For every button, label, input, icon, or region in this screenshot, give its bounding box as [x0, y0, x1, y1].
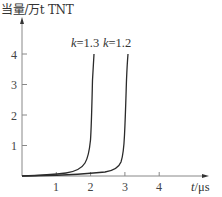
x-axis-title: t/μs — [191, 180, 210, 194]
curve-label-k-1-3: k=1.3 — [71, 36, 99, 50]
curve-label-k-1-2: k=1.2 — [103, 36, 131, 50]
y-tick-label: 3 — [11, 78, 17, 92]
y-tick-label: 4 — [11, 48, 17, 62]
x-tick-label: 2 — [88, 180, 94, 194]
x-tick-label: 3 — [122, 180, 128, 194]
y-tick-label: 2 — [11, 109, 17, 123]
y-axis-arrow-icon — [20, 17, 24, 24]
x-tick-label: 1 — [53, 180, 59, 194]
x-axis-arrow-icon — [202, 174, 209, 178]
curve-k-1-3 — [22, 54, 94, 176]
y-tick-label: 1 — [11, 139, 17, 153]
curve-k-1-2 — [22, 54, 128, 176]
y-ticks: 1 2 3 4 — [11, 48, 27, 154]
x-tick-label: 4 — [156, 180, 162, 194]
line-chart: 1 2 3 4 1 2 3 4 t/μs k=1.3 k=1.2 — [0, 0, 222, 197]
x-ticks: 1 2 3 4 — [53, 172, 162, 194]
